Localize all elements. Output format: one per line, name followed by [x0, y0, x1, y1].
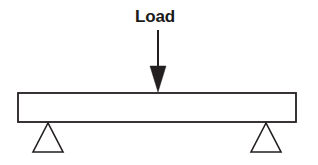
- left-triangular-support: [33, 123, 63, 152]
- right-triangular-support: [251, 123, 281, 152]
- beam-load-diagram: Load: [0, 0, 318, 165]
- beam-diagram-canvas: Load: [0, 0, 318, 165]
- load-label: Load: [135, 7, 175, 26]
- load-arrow-head-icon: [150, 66, 166, 92]
- beam-rectangle: [18, 93, 296, 122]
